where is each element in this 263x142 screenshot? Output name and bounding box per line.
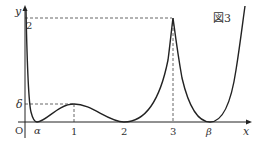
y-tick-2: 2 bbox=[26, 20, 32, 31]
y-axis-arrow-icon bbox=[23, 5, 28, 11]
x-tick-beta: β bbox=[205, 126, 212, 137]
x-tick-1: 1 bbox=[71, 126, 77, 137]
x-axis-label: x bbox=[243, 125, 250, 138]
y-axis-label: y bbox=[14, 5, 22, 18]
origin-label: O bbox=[15, 125, 23, 136]
x-tick-2: 2 bbox=[121, 126, 127, 137]
x-tick-alpha: α bbox=[34, 125, 41, 136]
function-graph: y 2 δ O α 1 2 3 β x 図3 bbox=[0, 0, 263, 142]
x-tick-3: 3 bbox=[170, 126, 176, 137]
x-axis-arrow-icon bbox=[246, 120, 252, 125]
figure-caption: 図3 bbox=[213, 12, 231, 25]
y-tick-delta: δ bbox=[16, 98, 23, 111]
